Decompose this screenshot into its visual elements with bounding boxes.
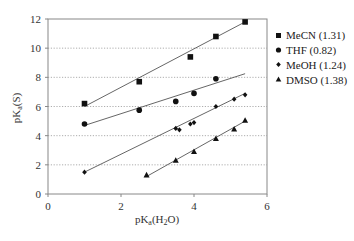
legend-item-thf: THF (0.82) (286, 44, 336, 57)
fit-lines (85, 22, 246, 177)
fit-line (85, 74, 246, 126)
circle-marker (213, 76, 219, 82)
legend-item-meoh: MeOH (1.24) (286, 59, 346, 72)
legend-diamond-icon (276, 62, 281, 67)
x-axis-title: pKa(H2O) (135, 213, 180, 227)
diamond-marker (192, 120, 197, 125)
grid-lines (48, 48, 267, 165)
circle-marker (173, 99, 179, 105)
diamond-marker (82, 170, 87, 175)
circle-marker (136, 107, 142, 113)
y-axis-ticks: 024681012 (30, 13, 48, 200)
triangle-marker (144, 172, 150, 178)
fit-line (147, 121, 246, 176)
legend-circle-icon (276, 47, 281, 52)
x-tick-label: 4 (191, 200, 197, 212)
fit-line (85, 93, 246, 172)
legend-item-dmso: DMSO (1.38) (286, 74, 347, 87)
y-tick-label: 12 (30, 13, 41, 25)
legend-square-icon (276, 33, 281, 38)
square-marker (213, 34, 219, 40)
y-axis-title: pKa(S) (10, 92, 24, 123)
y-tick-label: 0 (36, 188, 42, 200)
circle-marker (191, 91, 197, 97)
x-axis-ticks: 0246 (45, 194, 270, 212)
diamond-marker (188, 121, 193, 126)
y-tick-label: 2 (36, 159, 42, 171)
square-marker (242, 19, 248, 25)
x-tick-label: 6 (264, 200, 270, 212)
y-tick-label: 6 (36, 101, 42, 113)
legend-item-mecn: MeCN (1.31) (286, 29, 346, 42)
legend: MeCN (1.31) THF (0.82) MeOH (1.24) DMSO … (276, 29, 348, 87)
y-tick-label: 4 (36, 130, 42, 142)
square-marker (136, 79, 142, 85)
diamond-marker (177, 127, 182, 132)
x-tick-label: 2 (118, 200, 124, 212)
triangle-marker (242, 117, 248, 123)
y-tick-label: 10 (30, 42, 42, 54)
legend-triangle-icon (276, 77, 282, 82)
diamond-marker (243, 92, 248, 97)
fit-line (85, 22, 246, 107)
data-points (82, 19, 248, 177)
x-tick-label: 0 (45, 200, 51, 212)
triangle-marker (173, 157, 179, 163)
square-marker (188, 54, 194, 60)
scatter-chart: 024681012 0246 pKa(H2O) pKa(S) MeCN (1.3… (0, 0, 354, 241)
circle-marker (82, 121, 88, 127)
y-tick-label: 8 (36, 71, 42, 83)
square-marker (82, 101, 88, 107)
diamond-marker (232, 97, 237, 102)
